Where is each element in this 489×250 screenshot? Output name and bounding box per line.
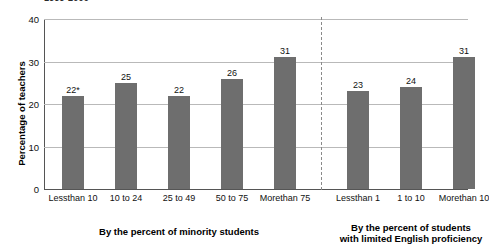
x-category-label-line1: Less [336,193,355,203]
x-category-label: Morethan 75 [260,193,311,203]
right-panel-caption-line1: By the percent of students [340,222,483,233]
panel-divider [321,17,322,190]
x-category-label: 25 to 49 [163,193,196,203]
x-category-label: 1 to 10 [397,193,425,203]
x-category-label-line2: than 75 [280,193,310,203]
x-category-label-line1: 1 to 10 [397,193,425,203]
bar-value-label: 31 [459,46,469,56]
right-panel-caption-line2: with limited English proficiency [340,233,483,244]
x-category-label: 50 to 75 [216,193,249,203]
x-category-label: Lessthan 1 [336,193,380,203]
bar: 26 [221,79,243,190]
gridline-30 [44,62,468,63]
bar: 23 [347,91,369,189]
y-tick-label-10: 10 [28,141,39,152]
x-category-label: Morethan 10 [439,193,489,203]
right-panel-caption: By the percent of studentswith limited E… [340,222,483,244]
x-category-label-line1: More [439,193,460,203]
bar-value-label: 25 [121,72,131,82]
gridline-40 [44,19,468,20]
y-axis-title: Percentage of teachers [16,39,27,189]
x-category-label-line2: than 10 [459,193,489,203]
bar: 24 [400,87,422,189]
bar-value-label: 22 [174,85,184,95]
bar: 31 [453,57,475,189]
bar: 22 [168,96,190,190]
x-category-label-line1: 50 to 75 [216,193,249,203]
x-category-label-line1: 25 to 49 [163,193,196,203]
chart-title: 1999-2000 [44,0,89,2]
bar: 25 [115,83,137,189]
x-category-label-line1: 10 to 24 [110,193,143,203]
y-tick-label-20: 20 [28,99,39,110]
plot-area: 40302010022*25222631232431 [44,19,468,190]
x-category-label: Lessthan 10 [48,193,97,203]
x-category-label: 10 to 24 [110,193,143,203]
bar-value-label: 24 [406,76,416,86]
bar-value-label: 22* [66,85,80,95]
x-category-label-line1: Less [48,193,67,203]
left-panel-caption-line1: By the percent of minority students [99,226,259,237]
bar-value-label: 23 [353,80,363,90]
bar-value-label: 26 [227,68,237,78]
y-tick-label-30: 30 [28,56,39,67]
y-tick-label-40: 40 [28,14,39,25]
x-category-label-line1: More [260,193,281,203]
y-tick-label-0: 0 [34,184,39,195]
x-category-label-line2: than 1 [355,193,380,203]
x-category-label-line2: than 10 [67,193,97,203]
left-panel-caption: By the percent of minority students [99,226,259,237]
bar: 22* [62,96,84,190]
bar-value-label: 31 [280,46,290,56]
bar: 31 [274,57,296,189]
